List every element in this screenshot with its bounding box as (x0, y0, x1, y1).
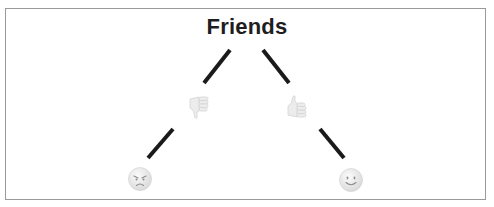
smiling-face-icon (338, 167, 364, 193)
angry-face-icon (127, 166, 153, 192)
thumbs-up-icon (284, 94, 310, 120)
thumbs-down-icon (186, 94, 212, 120)
tree-edges (0, 0, 494, 207)
edge-thumbs-up-to-smile (320, 129, 344, 158)
edge-root-to-thumbs-down (204, 50, 230, 83)
edge-root-to-thumbs-up (263, 50, 289, 83)
edge-thumbs-down-to-angry (148, 129, 173, 158)
